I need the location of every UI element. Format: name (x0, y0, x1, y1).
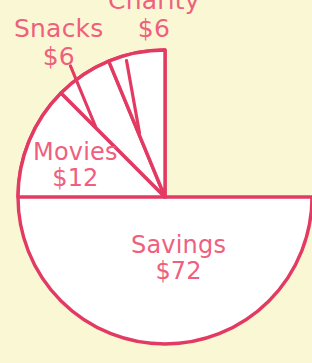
pie-label-charity: Charity $6 (108, 0, 200, 42)
pie-label-savings: Savings $72 (131, 233, 226, 285)
pie-label-movies: Movies $12 (33, 140, 118, 192)
pie-label-charity-name: Charity (108, 0, 200, 15)
pie-chart: Charity $6 Snacks $6 Movies $12 Savings … (0, 0, 312, 363)
pie-label-snacks-name: Snacks (14, 16, 103, 43)
pie-label-movies-name: Movies (33, 140, 118, 165)
pie-label-movies-value: $12 (33, 166, 118, 191)
pie-label-snacks-value: $6 (14, 44, 103, 71)
pie-label-charity-value: $6 (108, 16, 200, 43)
pie-label-savings-name: Savings (131, 233, 226, 258)
pie-label-snacks: Snacks $6 (14, 16, 103, 70)
pie-label-savings-value: $72 (131, 259, 226, 284)
